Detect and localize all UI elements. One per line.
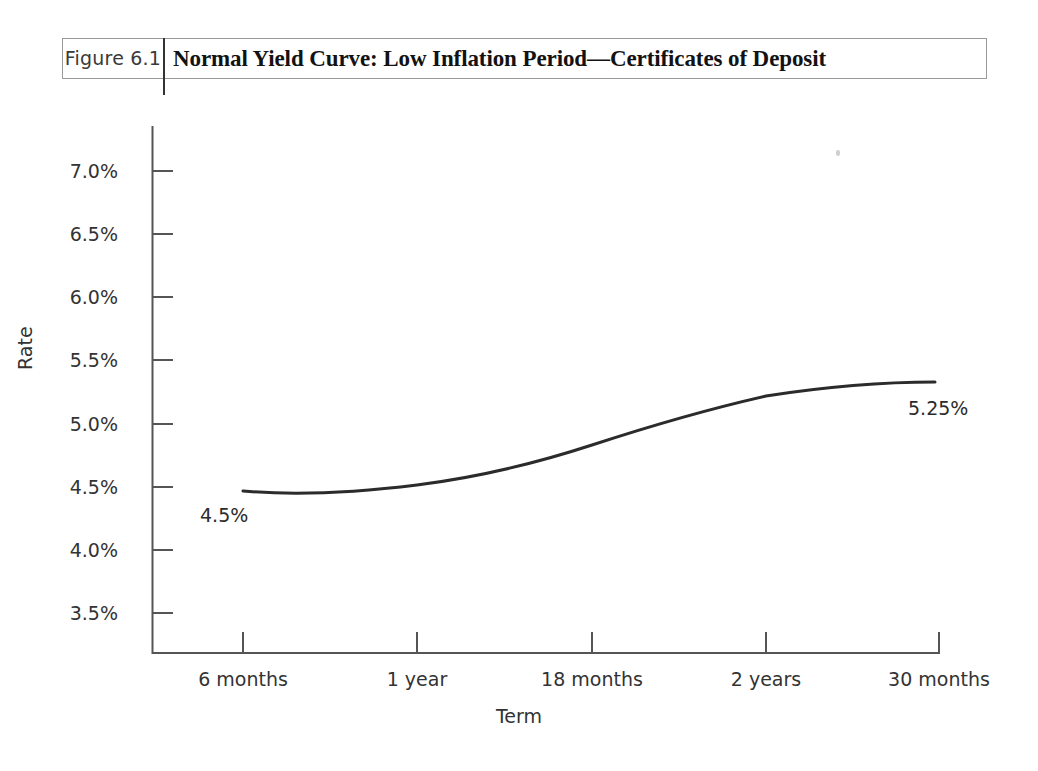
y-tick-label: 7.0% xyxy=(46,160,118,182)
figure-page: Figure 6.1 Normal Yield Curve: Low Infla… xyxy=(0,0,1038,771)
x-tick-label: 18 months xyxy=(522,668,662,690)
y-tick-label: 4.0% xyxy=(46,539,118,561)
data-label-start: 4.5% xyxy=(200,504,248,526)
x-tick-label: 6 months xyxy=(173,668,313,690)
y-tick-label: 6.0% xyxy=(46,286,118,308)
chart-canvas xyxy=(0,0,1038,771)
y-tick-label: 3.5% xyxy=(46,602,118,624)
y-axis-ticks xyxy=(153,171,173,613)
x-axis-title: Term xyxy=(0,705,1038,727)
y-tick-label: 5.0% xyxy=(46,413,118,435)
x-tick-label: 30 months xyxy=(869,668,1009,690)
y-tick-label: 4.5% xyxy=(46,476,118,498)
data-label-end: 5.25% xyxy=(908,397,968,419)
x-tick-label: 1 year xyxy=(347,668,487,690)
yield-curve-line xyxy=(243,382,935,493)
y-axis-title: Rate xyxy=(14,326,36,370)
x-axis-ticks xyxy=(243,632,939,652)
y-tick-label: 5.5% xyxy=(46,349,118,371)
x-tick-label: 2 years xyxy=(696,668,836,690)
yield-curve-chart: 7.0% 6.5% 6.0% 5.5% 5.0% 4.5% 4.0% 3.5% … xyxy=(0,0,1038,771)
scan-artifact-speck xyxy=(836,150,840,156)
y-tick-label: 6.5% xyxy=(46,223,118,245)
